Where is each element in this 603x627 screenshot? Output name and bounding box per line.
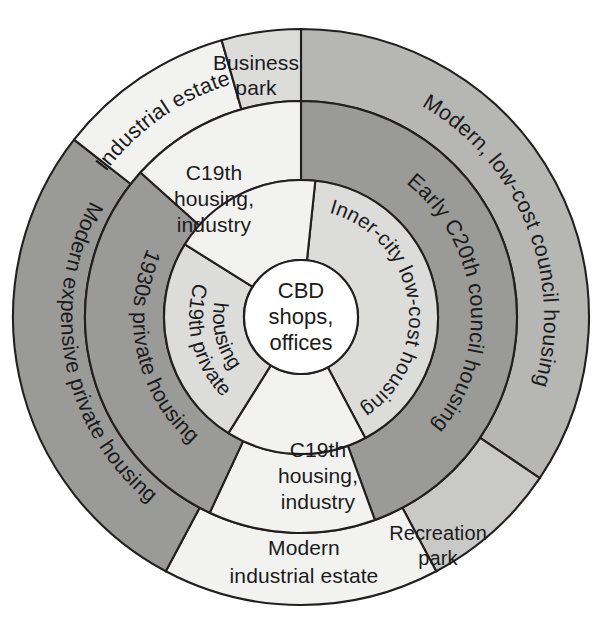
business-park-label-line2: park [235, 76, 277, 99]
modern-industrial-estate-line1: Modern [268, 536, 340, 559]
urban-land-use-diagram: CBD shops, offices Business park C19th h… [0, 0, 603, 627]
c19th-housing-industry-north-line1: C19th [186, 161, 243, 184]
modern-industrial-estate-line2: industrial estate [230, 564, 379, 587]
c19th-housing-industry-south-line1: C19th [290, 438, 347, 461]
c19th-housing-industry-south-line3: industry [281, 490, 356, 513]
core-label-line1: CBD [278, 278, 324, 303]
c19th-housing-industry-north-line2: housing, [174, 187, 254, 210]
c19th-housing-industry-south-line2: housing, [278, 464, 358, 487]
concentric-model-svg: CBD shops, offices Business park C19th h… [0, 0, 603, 627]
recreation-park-line2: park [418, 547, 458, 569]
recreation-park-line1: Recreation [389, 522, 487, 544]
core-label-line2: shops, [269, 304, 334, 329]
c19th-housing-industry-north-line3: industry [177, 213, 252, 236]
core-label-line3: offices [269, 330, 332, 355]
